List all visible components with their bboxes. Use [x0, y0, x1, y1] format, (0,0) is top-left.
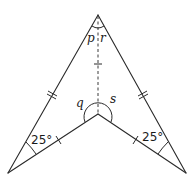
arrowhead-diagram: p r q s 25° 25° — [0, 0, 194, 187]
label-bottom-right-angle: 25° — [142, 130, 163, 144]
label-r: r — [100, 31, 107, 45]
label-bottom-left-angle: 25° — [31, 133, 52, 147]
left-inner-side — [8, 114, 98, 173]
label-s: s — [110, 92, 116, 106]
left-inner-tick — [56, 136, 61, 144]
label-p: p — [87, 31, 95, 45]
label-q: q — [76, 96, 84, 110]
